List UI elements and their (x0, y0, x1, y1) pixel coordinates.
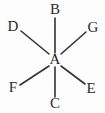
atom-label-d: D (5, 19, 21, 34)
bond-a-g (61, 32, 86, 54)
atom-label-e: E (83, 81, 99, 96)
bond-a-f (20, 66, 49, 85)
bond-a-d (21, 31, 49, 54)
atom-label-b: B (47, 2, 63, 17)
atom-label-g: G (85, 20, 101, 35)
bond-a-e (61, 66, 85, 84)
atom-label-c: C (47, 96, 63, 111)
atom-label-center: A (47, 52, 63, 67)
structure-diagram: BGECFD A (0, 0, 105, 113)
atom-label-f: F (5, 80, 21, 95)
